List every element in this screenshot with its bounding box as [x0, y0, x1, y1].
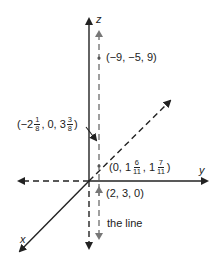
diagram-canvas: z y x (−9, −5, 9) (−218, 0, 338) (0, 161…	[0, 0, 223, 276]
point-label-p1: (−9, −5, 9)	[106, 52, 157, 63]
line-label: the line	[107, 218, 142, 229]
point-marker-p3	[97, 164, 100, 167]
p2-mid: , 0, 3	[41, 118, 65, 130]
x-axis-positive	[20, 181, 89, 251]
pointer-p2	[86, 127, 96, 140]
axes-drawing	[0, 0, 223, 276]
p2-fraction-1: 18	[34, 116, 40, 132]
p3-mid: , 1	[143, 161, 155, 173]
z-axis-label: z	[96, 14, 102, 25]
y-axis-label: y	[199, 165, 205, 176]
point-marker-p1	[97, 56, 100, 59]
p3-f1-den: 11	[132, 168, 142, 176]
x-axis-label: x	[20, 234, 26, 245]
p3-prefix: (0, 1	[109, 161, 131, 173]
p2-f1-den: 8	[34, 125, 40, 133]
point-label-p2: (−218, 0, 338)	[17, 117, 78, 133]
point-label-p4: (2, 3, 0)	[106, 188, 144, 199]
p3-f2-den: 11	[156, 168, 166, 176]
p3-fraction-1: 611	[132, 159, 142, 175]
p3-suffix: )	[167, 161, 171, 173]
p2-suffix: )	[74, 118, 78, 130]
point-label-p3: (0, 1611, 1711)	[109, 160, 171, 176]
p3-fraction-2: 711	[156, 159, 166, 175]
p2-prefix: (−2	[17, 118, 33, 130]
p2-f2-den: 8	[67, 125, 73, 133]
p2-fraction-2: 38	[67, 116, 73, 132]
